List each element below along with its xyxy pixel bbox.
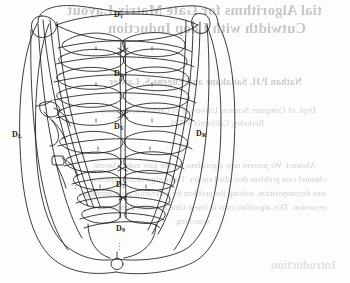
node-label-dr-sub: R <box>202 132 207 138</box>
node-label-d9-sub: 9 <box>122 227 125 233</box>
node-label-dl-sub: L <box>18 133 22 139</box>
node-label-d3: D3 <box>114 69 123 78</box>
node-label-d7-sub: 7 <box>122 183 125 189</box>
lens-row-7 <box>64 152 184 174</box>
node-label-dl: DL <box>12 130 22 139</box>
d9-cap-left <box>88 224 110 258</box>
node-label-d5-sub: 5 <box>120 125 123 131</box>
outer-boundary-curve <box>38 6 218 24</box>
node-label-d9: D9 <box>116 224 125 233</box>
d9-cap-right <box>124 224 156 258</box>
bottom-vertical-ellipsis: ... <box>118 240 121 250</box>
d1-lens-top <box>56 14 198 25</box>
node-label-d1: D1 <box>114 10 123 19</box>
left-vertical-ellipsis: ... <box>74 179 77 189</box>
bottom-terminal-loop <box>111 259 123 270</box>
node-label-d1-sub: 1 <box>120 13 123 19</box>
node-label-d7: D7 <box>116 180 125 189</box>
scanned-page: tial Algorithms for Gate Matrix Layout C… <box>0 0 350 283</box>
node-label-dr: DR <box>196 129 207 138</box>
node-label-d5: D5 <box>114 122 123 131</box>
graph-figure <box>0 0 350 283</box>
node-label-d3-sub: 3 <box>120 72 123 78</box>
left-crossing-cluster <box>36 100 78 188</box>
